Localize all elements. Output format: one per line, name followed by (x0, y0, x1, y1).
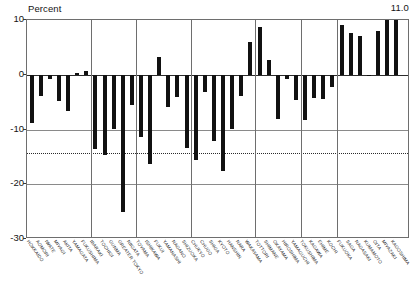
bar (212, 75, 216, 141)
bar (203, 75, 207, 92)
bar (39, 75, 43, 96)
bar (367, 75, 371, 77)
bar (312, 75, 316, 98)
bar (48, 75, 52, 79)
bar (230, 75, 234, 129)
bar (148, 75, 152, 164)
bar (57, 75, 61, 101)
bar (285, 75, 289, 79)
bar (267, 60, 271, 75)
plot-area (26, 19, 409, 238)
bar (93, 75, 97, 149)
bar (394, 20, 398, 75)
y-tick-label: -10 (0, 123, 24, 134)
bar (66, 75, 70, 112)
y-tick-label: -30 (0, 232, 24, 243)
chart-page: Percent 11.0 100-10-20-30 HOKKAIDOAOMORI… (0, 0, 411, 291)
bar (112, 75, 116, 129)
bar (221, 75, 225, 171)
bar (239, 75, 243, 96)
bar (385, 20, 389, 75)
bar (258, 27, 262, 75)
x-axis-labels: HOKKAIDOAOMORIIWATEMIYAGIAKITAYAMAGATAFU… (26, 239, 409, 291)
bar (276, 75, 280, 119)
bar (175, 75, 179, 97)
y-tick-label: 0 (0, 68, 24, 79)
bar (294, 75, 298, 101)
bar (303, 75, 307, 120)
bar (121, 75, 125, 212)
bar (166, 75, 170, 107)
bar (330, 75, 334, 88)
max-value-annotation: 11.0 (391, 2, 409, 13)
bar-series (27, 20, 408, 237)
bar (157, 57, 161, 75)
plot-inner (27, 20, 408, 237)
bar (349, 33, 353, 75)
bar (75, 73, 79, 75)
y-axis-title: Percent (28, 3, 61, 14)
bar (194, 75, 198, 160)
y-tick-label: 10 (0, 13, 24, 24)
bar (340, 25, 344, 74)
bar (30, 75, 34, 124)
bar (248, 42, 252, 75)
bar (84, 71, 88, 74)
bar (103, 75, 107, 155)
bar (358, 36, 362, 75)
y-tick-label: -20 (0, 177, 24, 188)
bar (139, 75, 143, 137)
bar (130, 75, 134, 105)
bar (376, 31, 380, 74)
bar (185, 75, 189, 148)
bar (321, 75, 325, 99)
